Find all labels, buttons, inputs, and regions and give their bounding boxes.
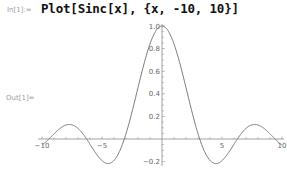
tick-labels: −10−5510−0.20.20.40.60.81.0 [35,23,287,167]
svg-text:5: 5 [220,142,224,150]
sinc-plot: −10−5510−0.20.20.40.60.81.0 [0,0,287,178]
svg-text:−5: −5 [97,142,107,150]
svg-text:0.8: 0.8 [149,45,160,53]
svg-text:0.6: 0.6 [149,68,161,76]
svg-text:0.4: 0.4 [149,90,161,98]
svg-text:−10: −10 [35,142,50,150]
svg-text:−0.2: −0.2 [143,158,160,166]
svg-text:0.2: 0.2 [149,113,160,121]
plot-axes [38,24,284,166]
svg-text:1.0: 1.0 [149,23,160,31]
